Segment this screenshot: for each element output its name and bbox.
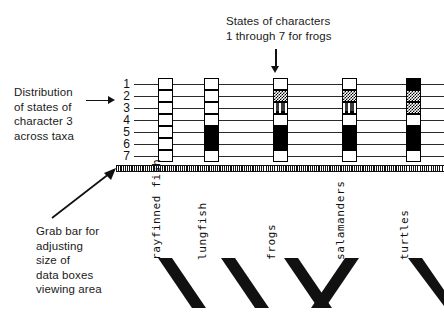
character-row-label-1: 1 (116, 78, 130, 90)
annotation-distribution-of-states: Distribution of states of character 3 ac… (14, 85, 74, 143)
data-box-lungfish-char-1[interactable] (204, 78, 219, 90)
data-box-salamanders-char-2[interactable] (342, 90, 357, 102)
data-matrix-diagram: States of characters 1 through 7 for fro… (0, 0, 444, 321)
arrow-right-icon (108, 96, 115, 104)
character-row-line (134, 120, 444, 121)
data-box-lungfish-char-6[interactable] (204, 138, 219, 150)
data-box-rayfinned-fish-char-2[interactable] (158, 90, 173, 102)
data-box-rayfinned-fish-char-6[interactable] (158, 138, 173, 150)
data-box-frogs-char-1[interactable] (273, 78, 288, 90)
grab-bar-handle[interactable] (116, 165, 444, 172)
data-box-turtles-char-2[interactable] (406, 90, 421, 102)
data-box-lungfish-char-5[interactable] (204, 126, 219, 138)
annotation-grab-bar-description: Grab bar for adjusting size of data boxe… (36, 224, 102, 297)
data-box-turtles-char-1[interactable] (406, 78, 421, 90)
data-box-lungfish-char-4[interactable] (204, 114, 219, 126)
tree-branch-salamanders (311, 258, 359, 308)
data-box-salamanders-char-5[interactable] (342, 126, 357, 138)
data-box-rayfinned-fish-char-3[interactable] (158, 102, 173, 114)
character-row-line (134, 132, 444, 133)
arrow-down-icon (271, 66, 279, 73)
taxon-label-salamanders[interactable]: salamanders (335, 181, 346, 260)
character-row-line (134, 84, 444, 85)
annotation-states-of-characters: States of characters 1 through 7 for fro… (226, 14, 332, 43)
phylogenetic-tree (116, 256, 444, 321)
taxon-label-rayfinned-fish[interactable]: rayfinned fish (151, 159, 162, 260)
tree-branch-rayfinned-fish (158, 258, 206, 308)
data-box-lungfish-char-7[interactable] (204, 150, 219, 162)
data-box-salamanders-char-1[interactable] (342, 78, 357, 90)
data-box-turtles-char-7[interactable] (406, 150, 421, 162)
data-box-rayfinned-fish-char-1[interactable] (158, 78, 173, 90)
data-box-turtles-char-5[interactable] (406, 126, 421, 138)
data-box-lungfish-char-2[interactable] (204, 90, 219, 102)
taxon-label-frogs[interactable]: frogs (266, 224, 277, 260)
data-box-turtles-char-3[interactable] (406, 102, 421, 114)
data-box-salamanders-char-6[interactable] (342, 138, 357, 150)
character-row-line (134, 96, 444, 97)
character-row-label-7: 7 (116, 150, 130, 162)
tree-branch-lungfish (221, 258, 269, 308)
data-box-lungfish-char-3[interactable] (204, 102, 219, 114)
data-box-rayfinned-fish-char-5[interactable] (158, 126, 173, 138)
data-box-frogs-char-2[interactable] (273, 90, 288, 102)
data-boxes-matrix[interactable]: 1234567 (116, 74, 444, 163)
character-row-label-3: 3 (116, 102, 130, 114)
annotation-arrow-diagonal (42, 168, 116, 222)
data-box-salamanders-char-3[interactable] (342, 102, 357, 114)
data-box-frogs-char-5[interactable] (273, 126, 288, 138)
character-row-label-4: 4 (116, 114, 130, 126)
taxon-labels: rayfinned fishlungfishfrogssalamanderstu… (116, 176, 444, 260)
taxon-label-turtles[interactable]: turtles (399, 209, 410, 260)
character-row-label-6: 6 (116, 138, 130, 150)
data-box-turtles-char-6[interactable] (406, 138, 421, 150)
data-box-frogs-char-7[interactable] (273, 150, 288, 162)
character-row-line (134, 156, 444, 157)
data-box-frogs-char-3[interactable] (273, 102, 288, 114)
data-box-frogs-char-4[interactable] (273, 114, 288, 126)
data-box-salamanders-char-4[interactable] (342, 114, 357, 126)
character-row-line (134, 144, 444, 145)
data-box-salamanders-char-7[interactable] (342, 150, 357, 162)
character-row-label-5: 5 (116, 126, 130, 138)
taxon-label-lungfish[interactable]: lungfish (197, 202, 208, 260)
data-box-turtles-char-4[interactable] (406, 114, 421, 126)
data-box-rayfinned-fish-char-4[interactable] (158, 114, 173, 126)
character-row-label-2: 2 (116, 90, 130, 102)
character-row-line (134, 108, 444, 109)
tree-branch-turtles (408, 258, 444, 306)
data-box-frogs-char-6[interactable] (273, 138, 288, 150)
